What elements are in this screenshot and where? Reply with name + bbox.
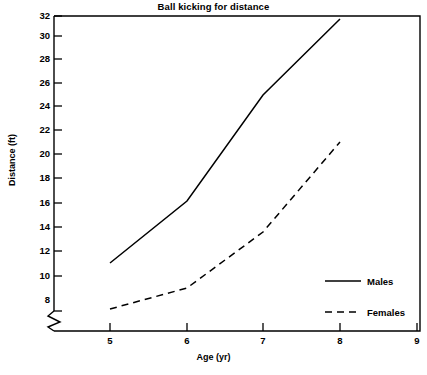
chart-plot-area bbox=[0, 0, 427, 375]
axis-frame bbox=[54, 16, 420, 331]
y-axis-line-with-break bbox=[48, 16, 60, 331]
y-axis-ticks bbox=[54, 16, 62, 311]
x-axis-ticks bbox=[110, 323, 417, 331]
series-line-females bbox=[110, 142, 340, 309]
series-line-males bbox=[110, 19, 340, 263]
chart-figure: Ball kicking for distance Distance (ft) … bbox=[0, 0, 427, 375]
